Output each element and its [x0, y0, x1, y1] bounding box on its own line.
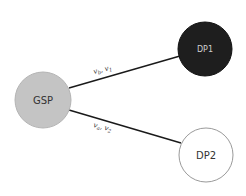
edge-gsp-dp2 [69, 110, 181, 143]
node-label-gsp: GSP [33, 95, 53, 106]
node-dp1: DP1 [178, 22, 232, 76]
edge-label-gsp-dp1: vb, v1 [93, 64, 113, 77]
edge-gsp-dp1 [69, 56, 180, 88]
edge-label-gsp-dp2: va, v2 [92, 121, 112, 134]
node-label-dp1: DP1 [197, 45, 213, 54]
node-gsp: GSP [15, 72, 71, 128]
node-dp2: DP2 [179, 128, 233, 182]
network-diagram: vb, v1 va, v2 GSP DP1 DP2 [0, 0, 246, 196]
node-label-dp2: DP2 [196, 150, 216, 161]
